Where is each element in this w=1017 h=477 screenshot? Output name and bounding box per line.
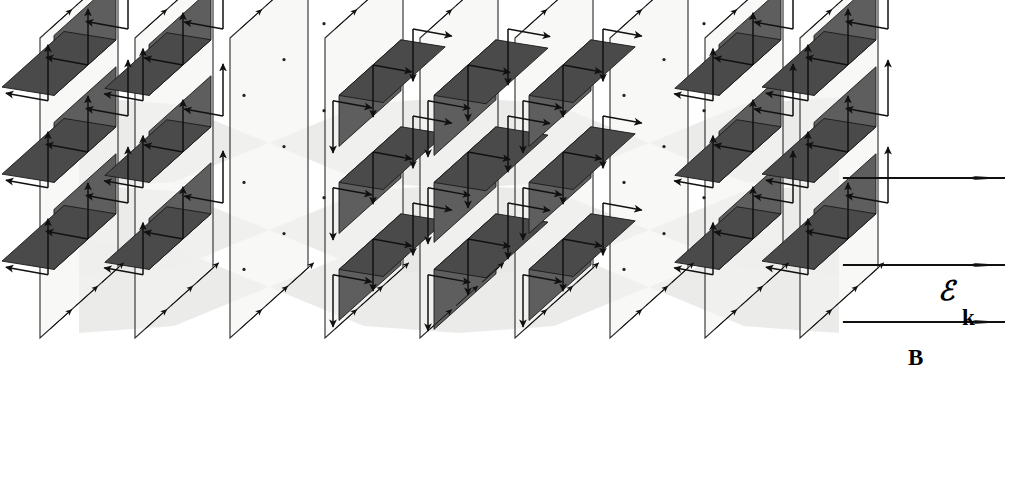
wave-vector-label: k — [962, 305, 975, 330]
electric-field-label: ℰ — [938, 275, 958, 306]
em-wave-scene: ℰkB — [0, 0, 1017, 477]
diagram-canvas: ℰkB — [0, 0, 1017, 477]
magnetic-field-label: B — [908, 345, 923, 370]
